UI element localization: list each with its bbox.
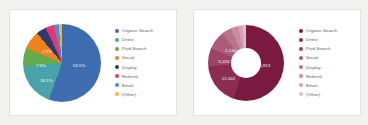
slice-value-label: 36,913 [257,62,270,67]
legend-swatch-icon [299,56,303,60]
legend-swatch-icon [299,29,303,33]
legend-swatch-icon [299,38,303,42]
slice-value-label: 12,002 [222,75,235,80]
dashboard-root: 55.5%18.1%7.6%7.7% Organic SearchDirectP… [0,0,368,125]
legend-swatch-icon [115,38,119,42]
legend-item-label: Organic Search [122,26,153,35]
legend-item-referral[interactable]: Referral [299,72,360,81]
legend-item-label: (Other) [306,90,320,99]
legend-item-organic-search[interactable]: Organic Search [115,26,176,35]
slice-value-label: 7.7% [42,48,52,53]
legend-item-social[interactable]: Social [299,53,360,62]
legend-item-label: Paid Search [306,44,330,53]
slice-value-label: 7.6% [36,62,46,67]
legend-swatch-icon [115,56,119,60]
donut-chart-legend: Organic SearchDirectPaid SearchSocialDis… [298,10,360,115]
slice-value-label: 5,144 [225,47,236,52]
pie-chart-card: 55.5%18.1%7.6%7.7% Organic SearchDirectP… [9,9,177,116]
legend-item-paid-search[interactable]: Paid Search [115,44,176,53]
legend-item-label: Display [306,63,321,72]
slice-value-label: 18.1% [40,78,52,83]
legend-item-email[interactable]: Email [115,81,176,90]
donut-data-labels: 36,91312,0025,2205,144 [208,25,284,101]
pie-data-labels: 55.5%18.1%7.6%7.7% [23,24,101,102]
slice-value-label: 5,220 [218,58,229,63]
legend-item-label: Display [122,63,137,72]
legend-item-social[interactable]: Social [115,53,176,62]
pie-chart-panel: 55.5%18.1%7.6%7.7% Organic SearchDirectP… [0,0,184,125]
legend-item-label: Email [122,81,133,90]
legend-item-label: Referral [122,72,138,81]
legend-item-email[interactable]: Email [299,81,360,90]
pie-chart-area: 55.5%18.1%7.6%7.7% [10,10,114,115]
legend-swatch-icon [299,47,303,51]
legend-item-other[interactable]: (Other) [299,90,360,99]
legend-swatch-icon [115,29,119,33]
legend-swatch-icon [115,74,119,78]
legend-swatch-icon [299,83,303,87]
legend-item-label: Direct [306,35,318,44]
legend-swatch-icon [115,92,119,96]
legend-item-direct[interactable]: Direct [115,35,176,44]
donut-chart-area: 36,91312,0025,2205,144 [194,10,298,115]
legend-item-label: Organic Search [306,26,337,35]
legend-item-label: Direct [122,35,134,44]
legend-item-direct[interactable]: Direct [299,35,360,44]
legend-item-label: Email [306,81,317,90]
legend-item-display[interactable]: Display [115,63,176,72]
legend-item-paid-search[interactable]: Paid Search [299,44,360,53]
legend-item-label: (Other) [122,90,136,99]
donut-chart-panel: 36,91312,0025,2205,144 Organic SearchDir… [184,0,368,125]
donut-chart-card: 36,91312,0025,2205,144 Organic SearchDir… [193,9,361,116]
legend-swatch-icon [299,65,303,69]
pie-graphic-wrapper: 55.5%18.1%7.6%7.7% [23,24,101,102]
legend-swatch-icon [115,83,119,87]
pie-chart-legend: Organic SearchDirectPaid SearchSocialDis… [114,10,176,115]
slice-value-label: 55.5% [73,62,85,67]
legend-swatch-icon [115,65,119,69]
legend-item-label: Paid Search [122,44,146,53]
legend-swatch-icon [299,92,303,96]
legend-swatch-icon [115,47,119,51]
legend-item-label: Referral [306,72,322,81]
legend-item-other[interactable]: (Other) [115,90,176,99]
legend-item-display[interactable]: Display [299,63,360,72]
donut-graphic-wrapper: 36,91312,0025,2205,144 [208,25,284,101]
legend-swatch-icon [299,74,303,78]
legend-item-referral[interactable]: Referral [115,72,176,81]
legend-item-label: Social [306,53,318,62]
legend-item-organic-search[interactable]: Organic Search [299,26,360,35]
legend-item-label: Social [122,53,134,62]
